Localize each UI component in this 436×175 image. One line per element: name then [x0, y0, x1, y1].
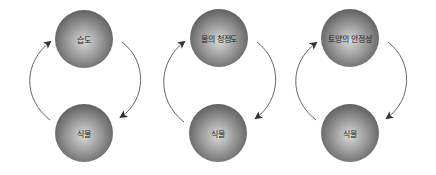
arrow-down-icon — [121, 42, 141, 117]
sphere-label: 습도 — [77, 34, 91, 45]
sphere-plant: 식물 — [321, 104, 379, 162]
sphere-label: 식물 — [343, 128, 357, 139]
sphere-label: 물의 청정도 — [201, 33, 237, 44]
sphere-plant: 식물 — [189, 104, 247, 162]
arrow-up-icon — [30, 42, 50, 120]
sphere-humidity: 습도 — [55, 10, 113, 68]
arrow-up-icon — [164, 42, 184, 122]
sphere-label: 식물 — [77, 128, 91, 139]
sphere-water-clarity: 물의 청정도 — [190, 9, 248, 67]
arrow-down-icon — [256, 42, 276, 118]
arrow-up-icon — [296, 43, 316, 120]
cycle-diagram: 습도 식물 물의 청정도 식물 토양의 안정성 식물 — [0, 0, 436, 175]
sphere-label: 토양의 안정성 — [328, 33, 371, 44]
arrow-down-icon — [387, 42, 407, 118]
sphere-soil-stability: 토양의 안정성 — [321, 9, 379, 67]
sphere-plant: 식물 — [55, 104, 113, 162]
sphere-label: 식물 — [211, 128, 225, 139]
